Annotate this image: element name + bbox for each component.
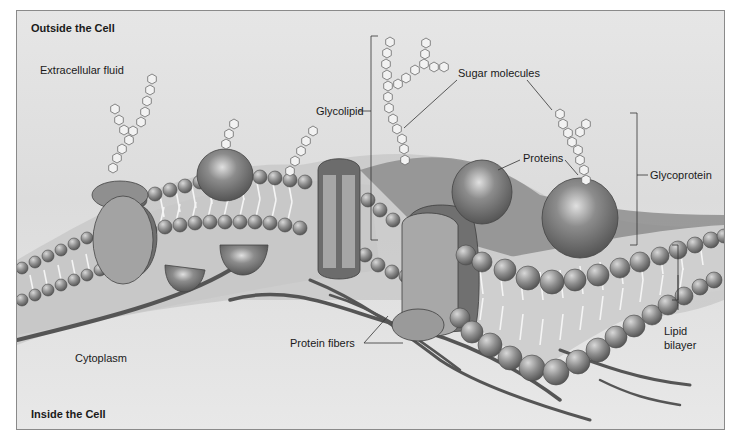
cytoplasm-label: Cytoplasm [75,352,127,365]
protein-fibers-label: Protein fibers [290,337,355,350]
proteins-label: Proteins [523,152,563,165]
lipid-bilayer-label-line2: bilayer [664,339,696,352]
lipid-bilayer-label-line1: Lipid [664,325,687,338]
sugar-molecules-label: Sugar molecules [458,67,540,80]
inside-cell-title: Inside the Cell [31,408,106,421]
glycoprotein-label: Glycoprotein [650,169,712,182]
glycolipid-label: Glycolipid [316,105,364,118]
extracellular-fluid-label: Extracellular fluid [40,64,124,77]
outside-cell-title: Outside the Cell [31,22,115,35]
